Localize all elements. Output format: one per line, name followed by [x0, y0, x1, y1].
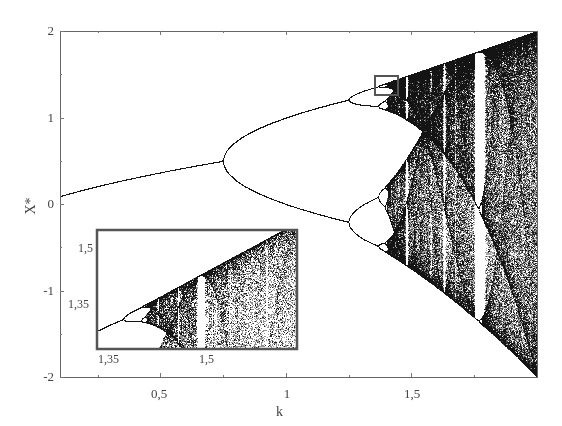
- x-tick-label: 1,5: [392, 386, 432, 402]
- x-tick-label: 0,5: [139, 386, 179, 402]
- inset-y-tick-label: 1,5: [78, 241, 93, 256]
- y-tick-label: 1: [24, 110, 54, 126]
- y-tick-label: -1: [24, 283, 54, 299]
- y-tick-label: -2: [24, 369, 54, 385]
- inset-y-tick-label: 1,35: [68, 297, 89, 312]
- bifurcation-plot-canvas: [0, 0, 562, 426]
- x-axis-label: k: [276, 404, 283, 420]
- inset-x-tick-label: 1,35: [98, 352, 119, 367]
- y-tick-label: 2: [24, 23, 54, 39]
- x-tick-label: 1: [267, 386, 307, 402]
- inset-x-tick-label: 1,5: [199, 352, 214, 367]
- y-axis-label: X*: [23, 197, 39, 214]
